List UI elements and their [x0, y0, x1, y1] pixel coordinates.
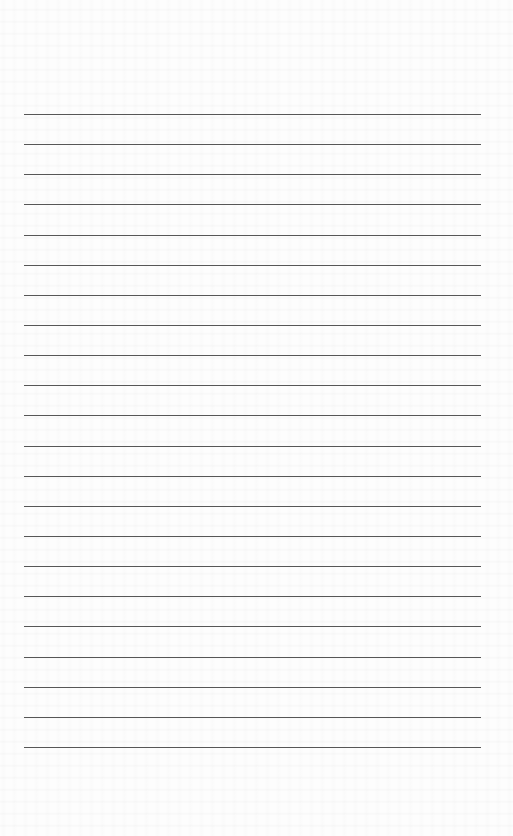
ruled-line [24, 657, 481, 658]
ruled-line [24, 747, 481, 748]
ruled-line [24, 355, 481, 356]
ruled-line [24, 717, 481, 718]
ruled-line [24, 295, 481, 296]
ruled-line [24, 566, 481, 567]
ruled-line [24, 235, 481, 236]
ruled-line [24, 325, 481, 326]
ruled-line [24, 204, 481, 205]
ruled-line [24, 144, 481, 145]
ruled-line [24, 265, 481, 266]
ruled-line [24, 596, 481, 597]
ruled-line [24, 476, 481, 477]
ruled-line [24, 506, 481, 507]
ruled-line [24, 536, 481, 537]
ruled-line [24, 415, 481, 416]
ruled-line [24, 174, 481, 175]
lined-paper-page [0, 0, 513, 836]
paper-show-through-texture [0, 0, 513, 836]
ruled-line [24, 114, 481, 115]
ruled-line [24, 385, 481, 386]
ruled-line [24, 626, 481, 627]
ruled-line [24, 687, 481, 688]
ruled-line [24, 446, 481, 447]
